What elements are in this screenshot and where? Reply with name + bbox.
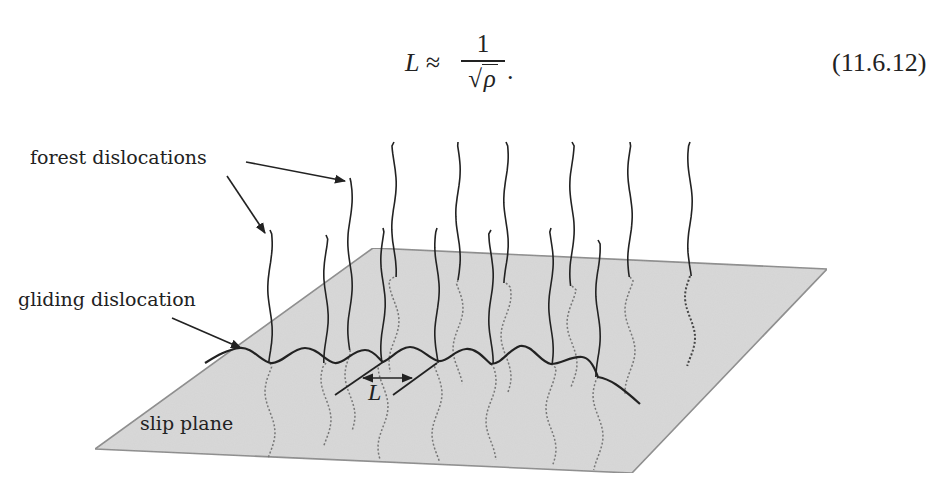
forest-arrow-left — [227, 176, 265, 233]
forest-arrow-right — [246, 162, 345, 181]
dislocation-figure: L forest dislocations gliding dislocatio… — [0, 0, 939, 487]
slip-plane — [95, 248, 827, 473]
slip-plane-label: slip plane — [140, 412, 233, 434]
spacing-label: L — [367, 379, 381, 405]
forest-tall-dislocation-line — [628, 142, 632, 277]
forest-tall-dislocation-line — [688, 142, 692, 276]
forest-dislocations-label: forest dislocations — [30, 146, 207, 168]
gliding-arrow — [172, 318, 241, 348]
gliding-dislocation-label: gliding dislocation — [18, 288, 196, 310]
